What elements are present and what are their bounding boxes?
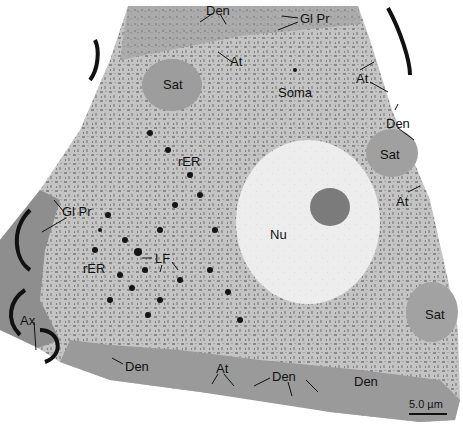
label-den-bottom-mid: Den [272,370,296,383]
label-den-bottom-right: Den [354,375,378,388]
label-lipofuscin: LF [155,252,170,265]
label-den-right: Den [386,117,410,130]
label-den-top: Den [206,4,230,17]
label-satellite-lower-right: Sat [425,308,445,321]
label-soma: Soma [278,86,312,99]
label-axon-terminal-top: At [230,55,242,68]
label-glial-process-left: Gl Pr [62,205,92,218]
label-axon-terminal-bottom: At [216,362,228,375]
label-nucleus: Nu [270,228,287,241]
label-rer-upper: rER [178,155,200,168]
scale-bar-label: 5.0 µm [409,398,443,410]
nucleus [236,140,380,304]
scale-bar [409,413,447,415]
label-satellite-top: Sat [163,78,183,91]
label-satellite-right: Sat [380,148,400,161]
label-glial-process-top: Gl Pr [300,12,330,25]
label-rer-lower: rER [83,262,105,275]
nucleolus [310,188,350,226]
label-den-bottom-left: Den [125,360,149,373]
label-axon-terminal-right: At [396,195,408,208]
label-axon-terminal-right-top: At [356,72,368,85]
label-axon: Ax [20,314,35,327]
